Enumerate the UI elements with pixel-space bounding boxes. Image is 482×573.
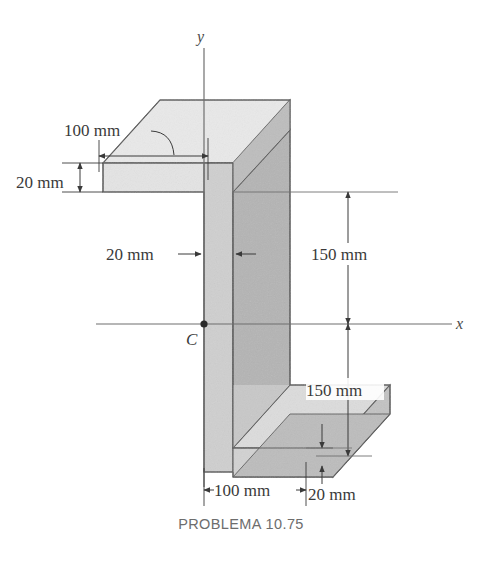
dim-top-flange-thickness: 20 mm [16, 163, 103, 192]
zee-section-drawing: y x C 100 mm 20 mm 20 mm [0, 0, 482, 573]
x-axis-label: x [455, 315, 463, 332]
web-front-face [204, 163, 233, 472]
centroid-point [200, 320, 207, 327]
dim-label-top-flange-thickness: 20 mm [16, 173, 64, 192]
dim-label-web-thickness: 20 mm [106, 245, 154, 264]
dim-label-bottom-flange-thickness: 20 mm [308, 485, 356, 504]
y-axis-label: y [195, 28, 205, 46]
dim-label-bottom-flange-width: 100 mm [214, 481, 270, 500]
dim-label-upper-web-height: 150 mm [311, 245, 367, 264]
centroid-label: C [186, 330, 198, 349]
problem-figure: y x C 100 mm 20 mm 20 mm [0, 0, 482, 573]
dim-label-top-flange-width: 100 mm [64, 121, 120, 140]
figure-caption: PROBLEMA 10.75 [0, 516, 482, 532]
dim-label-lower-web-height: 150 mm [306, 381, 362, 400]
zee-section-body [103, 100, 390, 477]
